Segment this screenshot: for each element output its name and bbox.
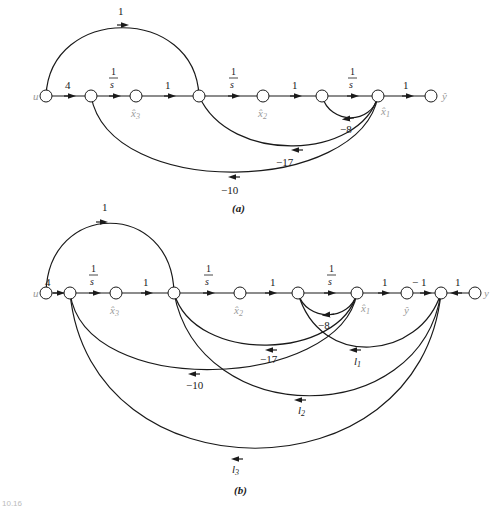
gain-fb10: −10 [221, 184, 239, 196]
gain-b1: 1 [165, 79, 171, 91]
gain-int3-den: s [349, 79, 353, 90]
label-x3: x̂3 [130, 107, 140, 121]
label-yhat: ŷ [441, 90, 447, 102]
node-sum-2 [193, 90, 205, 102]
gain-out: 1 [382, 276, 388, 288]
label-yhat: ŷ [403, 304, 409, 316]
gain-fb8: −8 [340, 123, 352, 135]
node-x1 [351, 287, 363, 299]
gain-int2-den: s [230, 79, 234, 90]
signal-flow-graph-figure: u x̂3 x̂2 x̂1 ŷ 1 4 1 s 1 1 s 1 1 s 1 −8… [0, 0, 495, 507]
node-x1 [372, 90, 384, 102]
gain-neg1: − 1 [412, 276, 426, 288]
gain-l3: l3 [232, 463, 239, 477]
gain-b2: 1 [270, 276, 276, 288]
gain-b1: 1 [143, 276, 149, 288]
observer-gain-l3 [70, 293, 441, 448]
gain-int2-num: 1 [231, 66, 236, 77]
node-sum-3 [316, 90, 328, 102]
gain-l2: l2 [298, 404, 305, 418]
label-x1: x̂1 [380, 105, 390, 119]
gain-int1-den: s [90, 276, 94, 287]
gain-b2: 1 [292, 79, 298, 91]
figure-number: 10.16 [2, 499, 23, 507]
node-yhat [401, 287, 413, 299]
gain-input: 4 [45, 276, 51, 288]
gain-int1-num: 1 [111, 66, 116, 77]
node-sum-3 [292, 287, 304, 299]
panel-a: u x̂3 x̂2 x̂1 ŷ 1 4 1 s 1 1 s 1 1 s 1 −8… [33, 5, 447, 215]
feedback-8-a [322, 96, 378, 118]
label-u: u [33, 287, 39, 299]
gain-int2-num: 1 [206, 263, 211, 274]
gain-int2-den: s [205, 276, 209, 287]
label-y: y [483, 287, 489, 299]
node-error-sum [435, 287, 447, 299]
node-sum-1 [85, 90, 97, 102]
label-x2: x̂2 [233, 304, 243, 318]
gain-feedforward: 1 [118, 5, 124, 17]
node-x2 [257, 90, 269, 102]
caption-a: (a) [232, 202, 245, 215]
label-u: u [33, 90, 39, 102]
gain-int1-num: 1 [91, 263, 96, 274]
gain-int1-den: s [110, 79, 114, 90]
gain-fb17: −17 [260, 353, 278, 365]
node-x3 [110, 287, 122, 299]
node-yhat [425, 90, 437, 102]
node-u [40, 90, 52, 102]
node-x2 [234, 287, 246, 299]
node-sum-2 [168, 287, 180, 299]
node-sum-1 [64, 287, 76, 299]
gain-y-input: 1 [455, 276, 461, 288]
panel-b: u x̂3 x̂2 x̂1 ŷ y 1 4 1 s 1 1 s 1 1 s 1 … [33, 201, 489, 497]
feedforward-arc-b [46, 223, 174, 293]
gain-input: 4 [65, 79, 71, 91]
gain-feedforward: 1 [102, 201, 108, 213]
label-x2: x̂2 [257, 107, 267, 121]
gain-int3-num: 1 [350, 66, 355, 77]
label-x1: x̂1 [360, 302, 370, 316]
gain-out: 1 [403, 79, 409, 91]
caption-b: (b) [234, 484, 247, 497]
label-x3: x̂3 [109, 304, 119, 318]
gain-int3-num: 1 [329, 263, 334, 274]
node-y [469, 287, 481, 299]
gain-fb10: −10 [186, 379, 204, 391]
gain-int3-den: s [328, 276, 332, 287]
gain-fb17: −17 [276, 156, 294, 168]
node-x3 [130, 90, 142, 102]
gain-l1: l1 [354, 355, 361, 369]
node-u [40, 287, 52, 299]
gain-fb8: −8 [318, 319, 330, 331]
